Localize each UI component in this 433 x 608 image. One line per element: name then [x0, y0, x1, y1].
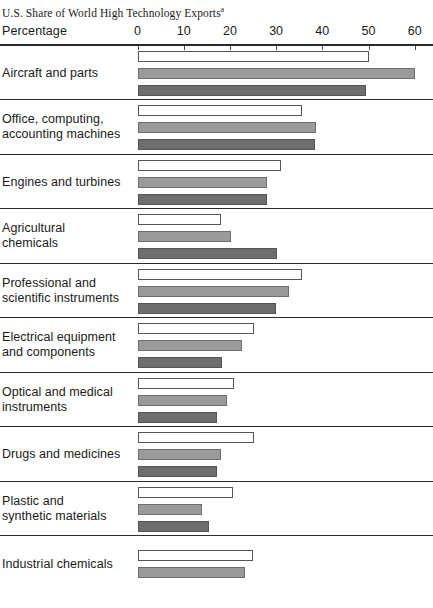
bar-series-1 — [138, 214, 221, 225]
row-bars — [0, 264, 433, 318]
bar-series-1 — [138, 487, 233, 498]
bar-series-2 — [138, 567, 245, 578]
bar-series-1 — [138, 550, 254, 561]
row-bars — [0, 209, 433, 263]
bar-series-1 — [138, 51, 369, 62]
footnote-marker: a — [221, 5, 224, 14]
bar-series-3 — [138, 466, 218, 477]
axis-header: Percentage 0102030405060 — [0, 22, 433, 44]
axis-tick-label-10: 10 — [177, 24, 191, 38]
bar-series-2 — [138, 504, 203, 515]
chart-row: Professional andscientific instruments — [0, 264, 433, 319]
chart-row: Aircraft and parts — [0, 46, 433, 101]
bar-series-3 — [138, 248, 278, 259]
axis-tick-label-20: 20 — [223, 24, 237, 38]
axis-tick-label-50: 50 — [362, 24, 376, 38]
bar-series-2 — [138, 340, 243, 351]
bar-series-2 — [138, 449, 221, 460]
row-bars — [0, 482, 433, 536]
bar-series-3 — [138, 521, 209, 532]
bar-series-2 — [138, 231, 232, 242]
chart-row: Electrical equipmentand components — [0, 318, 433, 373]
axis-tick-label-30: 30 — [269, 24, 283, 38]
row-bars — [0, 46, 433, 100]
bar-series-2 — [138, 122, 317, 133]
axis-tick-label-40: 40 — [315, 24, 329, 38]
bar-series-3 — [138, 412, 218, 423]
chart-row: Drugs and medicines — [0, 427, 433, 482]
bar-series-3 — [138, 303, 277, 314]
bar-series-3 — [138, 357, 222, 368]
row-bars — [0, 427, 433, 481]
bar-series-3 — [138, 85, 366, 96]
axis-label: Percentage — [2, 24, 67, 38]
bar-series-1 — [138, 160, 281, 171]
chart-row: Engines and turbines — [0, 155, 433, 210]
row-bars — [0, 536, 433, 591]
chart-rows: Aircraft and partsOffice, computing,acco… — [0, 46, 433, 591]
page-title-text: U.S. Share of World High Technology Expo… — [2, 7, 221, 19]
bar-series-3 — [138, 139, 316, 150]
axis-tick-label-0: 0 — [134, 24, 141, 38]
row-bars — [0, 318, 433, 372]
bar-series-1 — [138, 378, 234, 389]
row-bars — [0, 100, 433, 154]
row-bars — [0, 155, 433, 209]
bar-series-1 — [138, 105, 303, 116]
chart-row: Agriculturalchemicals — [0, 209, 433, 264]
bar-series-1 — [138, 323, 255, 334]
chart-row: Industrial chemicals — [0, 536, 433, 591]
bar-series-1 — [138, 432, 255, 443]
bar-series-2 — [138, 177, 267, 188]
row-bars — [0, 373, 433, 427]
chart-row: Office, computing,accounting machines — [0, 100, 433, 155]
bar-series-2 — [138, 286, 289, 297]
chart-row: Optical and medicalinstruments — [0, 373, 433, 428]
bar-series-1 — [138, 269, 302, 280]
bar-series-3 — [138, 194, 267, 205]
bar-series-2 — [138, 68, 415, 79]
page-title: U.S. Share of World High Technology Expo… — [0, 0, 433, 22]
bar-series-2 — [138, 395, 227, 406]
chart-row: Plastic andsynthetic materials — [0, 482, 433, 537]
axis-tick-label-60: 60 — [408, 24, 422, 38]
